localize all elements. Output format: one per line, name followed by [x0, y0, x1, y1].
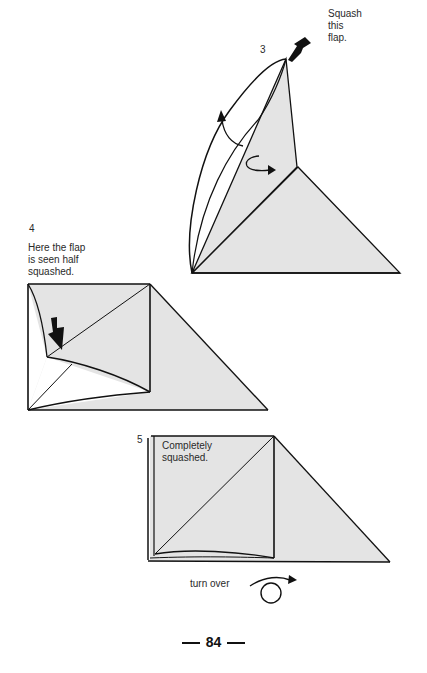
dash-right — [227, 642, 245, 644]
caption-line: Squash — [328, 8, 362, 20]
step-number-3: 3 — [260, 44, 266, 55]
squash-arrow-icon — [288, 37, 311, 62]
step-5-caption: Completely squashed. — [162, 440, 212, 464]
turn-over-icon — [250, 575, 297, 603]
turn-over-label: turn over — [190, 578, 229, 590]
caption-line: this — [328, 20, 362, 32]
unfold-arrow-icon — [217, 110, 243, 146]
caption-line: Here the flap — [28, 242, 85, 254]
step-4-caption: Here the flap is seen half squashed. — [28, 242, 85, 278]
caption-line: is seen half — [28, 254, 85, 266]
origami-diagrams — [0, 0, 427, 673]
caption-line: squashed. — [162, 452, 212, 464]
step-4-diagram — [28, 284, 268, 410]
caption-line: Completely — [162, 440, 212, 452]
page-number-value: 84 — [206, 634, 222, 650]
step-3-caption: Squash this flap. — [328, 8, 362, 44]
page-number: 84 — [0, 634, 427, 650]
step-number-4: 4 — [29, 223, 35, 234]
caption-line: flap. — [328, 32, 362, 44]
step-3-diagram — [190, 37, 400, 273]
dash-left — [182, 642, 200, 644]
caption-line: squashed. — [28, 266, 85, 278]
step-number-5: 5 — [137, 434, 143, 445]
